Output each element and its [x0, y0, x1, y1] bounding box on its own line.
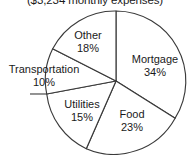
pie-label-food-value: 23%	[106, 121, 158, 134]
pie-label-utilities-name: Utilities	[53, 98, 111, 111]
pie-label-other-name: Other	[62, 29, 114, 42]
pie-label-food: Food 23%	[106, 108, 158, 134]
pie-label-food-name: Food	[106, 108, 158, 121]
pie-label-mortgage-value: 34%	[122, 66, 188, 79]
pie-label-mortgage-name: Mortgage	[122, 53, 188, 66]
pie-label-transportation-value: 10%	[0, 76, 90, 89]
pie-label-transportation-name: Transportation	[0, 63, 90, 76]
pie-label-utilities: Utilities 15%	[53, 98, 111, 124]
pie-label-mortgage: Mortgage 34%	[122, 53, 188, 79]
pie-label-transportation: Transportation 10%	[0, 63, 90, 89]
pie-label-utilities-value: 15%	[53, 111, 111, 124]
pie-chart-figure: ($3,234 monthly expenses) Mortgage 34% F…	[0, 0, 190, 155]
pie-label-other-value: 18%	[62, 42, 114, 55]
pie-label-other: Other 18%	[62, 29, 114, 55]
